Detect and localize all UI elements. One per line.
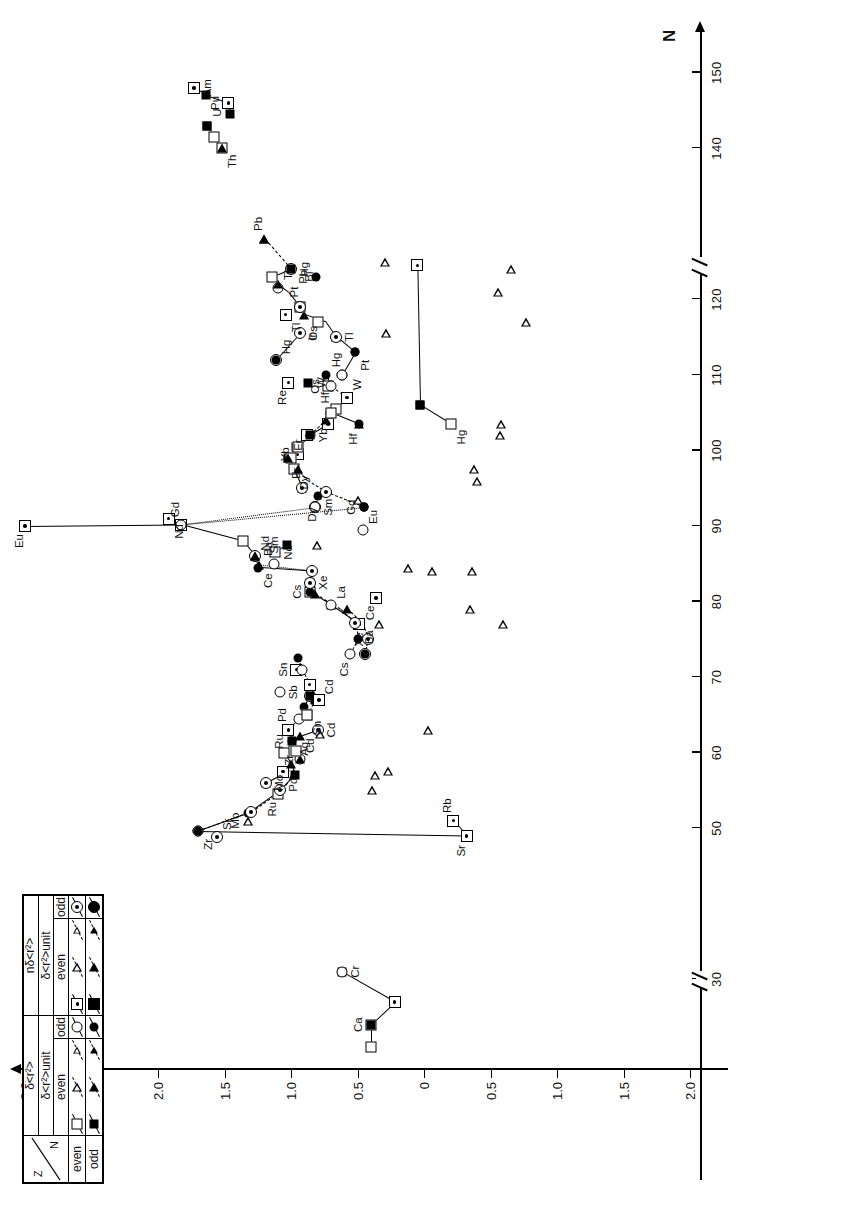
connector — [417, 265, 421, 405]
ratio-tick — [358, 1070, 359, 1078]
element-label: Cs — [291, 585, 303, 599]
marker-square-dot — [280, 309, 292, 321]
legend-symbol-triangle-open-small — [69, 1039, 85, 1061]
element-label: Xe — [317, 576, 329, 590]
element-label: Hf — [319, 392, 331, 404]
marker-square-filled-dot — [88, 998, 100, 1010]
marker-triangle-open-small — [73, 926, 81, 933]
element-label: Pb — [252, 217, 264, 231]
legend-symbol-square-filled-dot — [86, 993, 102, 1015]
marker-square-open — [301, 709, 312, 720]
element-label: Sn — [311, 721, 323, 735]
marker-triangle-open — [370, 771, 380, 780]
element-label: Rb — [441, 798, 453, 813]
legend-symbol-circle-open — [69, 1016, 85, 1038]
element-label: Sr — [455, 845, 467, 857]
marker-circle-filled — [350, 348, 359, 357]
marker-square-dot — [389, 996, 401, 1008]
legend-col-g1-even: even — [54, 919, 69, 1016]
marker-square-open — [365, 1042, 376, 1053]
marker-circle-filled — [293, 654, 302, 663]
legend-symbol-square-dot — [69, 993, 85, 1015]
marker-circle-open — [72, 1022, 83, 1033]
n-tick — [692, 827, 700, 828]
marker-circle-dot — [330, 331, 342, 343]
marker-square-dot — [461, 830, 473, 842]
chart-canvas: N δ<r2>A,A+2 δ<r2>A,A+2unit 305060708090… — [0, 0, 854, 1220]
legend-symbol-square-filled — [86, 1113, 102, 1135]
legend-cell-g0-even-even — [69, 1039, 86, 1136]
legend-col-g0-even: even — [54, 1039, 69, 1136]
ratio-tick — [624, 1070, 625, 1078]
marker-circle-open — [336, 369, 347, 380]
marker-square-dot — [19, 520, 31, 532]
marker-square-dot — [282, 377, 294, 389]
marker-circle-filled — [90, 1023, 99, 1032]
marker-triangle-open — [312, 540, 322, 549]
ratio-tick-label: 0 — [417, 1082, 432, 1122]
element-label: Zr — [202, 839, 214, 850]
ratio-tick — [690, 1070, 691, 1078]
element-label: Pt — [359, 360, 371, 371]
marker-square-filled — [416, 401, 425, 410]
marker-circle-dot — [260, 777, 272, 789]
element-label: Nd — [282, 545, 294, 560]
marker-triangle-filled — [250, 552, 260, 561]
element-label: Dy — [306, 508, 318, 522]
marker-square-open — [238, 536, 249, 547]
marker-square-dot — [304, 679, 316, 691]
element-label: Cs — [338, 662, 350, 676]
marker-circle-dot — [320, 486, 332, 498]
marker-circle-filled — [193, 827, 202, 836]
legend-row-even: even — [69, 1136, 86, 1183]
element-label: Hg — [330, 353, 342, 368]
marker-square-filled — [90, 1120, 99, 1129]
element-label: Ir — [306, 334, 318, 341]
legend-symbol-triangle-open — [69, 1076, 85, 1098]
element-label: Ce — [364, 605, 376, 620]
ratio-tick-label: 2.0 — [151, 1082, 166, 1122]
marker-square-open — [72, 1119, 83, 1130]
ratio-tick-label: 1.5 — [217, 1082, 232, 1122]
element-label: Re — [276, 390, 288, 405]
element-label: W — [315, 377, 327, 388]
legend-cell-g1-odd-even — [69, 896, 86, 919]
legend-symbol-circle-dot — [69, 896, 85, 918]
element-label: Yb — [317, 428, 329, 442]
element-label: Ru — [266, 802, 278, 817]
element-label: Mo — [273, 775, 285, 791]
marker-circle-open — [325, 600, 336, 611]
element-label: Er — [292, 439, 304, 451]
marker-triangle-filled — [89, 1083, 99, 1092]
marker-triangle-open — [521, 318, 531, 327]
marker-square-filled — [366, 1020, 375, 1029]
marker-triangle-open — [72, 1083, 82, 1092]
marker-circle-filled-dot — [88, 901, 100, 913]
legend-cell-g0-odd-even — [69, 1016, 86, 1039]
n-tick-label: 90 — [709, 519, 724, 534]
ratio-tick — [291, 1070, 292, 1078]
marker-triangle-open — [465, 605, 475, 614]
n-tick-label: 120 — [709, 288, 724, 311]
element-label: Sm — [322, 499, 334, 516]
element-label: Pd — [276, 708, 288, 722]
marker-triangle-open — [496, 420, 506, 429]
element-label: Zr — [283, 755, 295, 766]
ratio-tick-label: 0.5 — [483, 1082, 498, 1122]
element-label: Eu — [367, 510, 379, 524]
n-tick-label: 140 — [709, 137, 724, 160]
legend-col-g0-odd: odd — [54, 1016, 69, 1039]
n-tick — [692, 751, 700, 752]
marker-triangle-open — [403, 563, 413, 572]
element-label: Hg — [280, 340, 292, 355]
element-label: Cd — [323, 679, 335, 694]
marker-square-filled — [225, 109, 234, 118]
element-label: Gd — [169, 502, 181, 517]
legend-group-0-denominator: δ<r²>unit — [39, 1016, 53, 1135]
axis-break-low — [693, 970, 707, 988]
element-label: Pt — [288, 287, 300, 298]
element-label: Am — [201, 79, 213, 96]
marker-triangle-open — [467, 567, 477, 576]
connector — [198, 831, 467, 837]
marker-square-open — [445, 419, 456, 430]
